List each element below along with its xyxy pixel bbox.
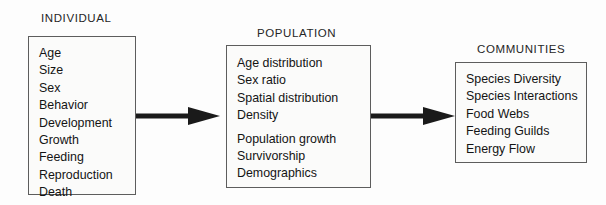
list-item: Size bbox=[39, 62, 131, 79]
level-heading-communities: COMMUNITIES bbox=[477, 43, 565, 55]
list-item: Density bbox=[237, 107, 366, 124]
list-item: Feeding Guilds bbox=[466, 123, 582, 140]
list-item: Food Webs bbox=[466, 106, 582, 123]
list-item: Survivorship bbox=[237, 148, 366, 165]
list-item: Death bbox=[39, 184, 131, 201]
level-item-list-communities: Species Diversity Species Interactions F… bbox=[466, 71, 582, 158]
connector-individual-to-population bbox=[136, 103, 220, 129]
level-heading-population: POPULATION bbox=[257, 27, 336, 39]
list-item: Species Interactions bbox=[466, 88, 582, 105]
list-item: Species Diversity bbox=[466, 71, 582, 88]
level-item-list-population: Age distribution Sex ratio Spatial distr… bbox=[237, 55, 366, 183]
list-item: Spatial distribution bbox=[237, 90, 366, 107]
list-item: Age distribution bbox=[237, 55, 366, 72]
list-item: Sex bbox=[39, 80, 131, 97]
level-box-population: Age distribution Sex ratio Spatial distr… bbox=[226, 45, 371, 188]
list-item: Age bbox=[39, 45, 131, 62]
ecology-levels-diagram: INDIVIDUAL Age Size Sex Behavior Develop… bbox=[0, 0, 606, 205]
arrow-right-icon bbox=[371, 103, 455, 129]
level-item-list-individual: Age Size Sex Behavior Development Growth… bbox=[39, 45, 131, 202]
list-item: Behavior bbox=[39, 97, 131, 114]
connector-population-to-communities bbox=[371, 103, 455, 129]
list-item: Development bbox=[39, 115, 131, 132]
list-item: Sex ratio bbox=[237, 72, 366, 89]
list-item: Reproduction bbox=[39, 167, 131, 184]
list-item: Growth bbox=[39, 132, 131, 149]
level-box-individual: Age Size Sex Behavior Development Growth… bbox=[28, 36, 136, 195]
level-box-communities: Species Diversity Species Interactions F… bbox=[455, 62, 587, 163]
list-item: Energy Flow bbox=[466, 141, 582, 158]
arrow-right-icon bbox=[136, 103, 220, 129]
level-heading-individual: INDIVIDUAL bbox=[41, 12, 112, 24]
list-item: Demographics bbox=[237, 165, 366, 182]
list-item: Population growth bbox=[237, 131, 366, 148]
list-item: Feeding bbox=[39, 149, 131, 166]
